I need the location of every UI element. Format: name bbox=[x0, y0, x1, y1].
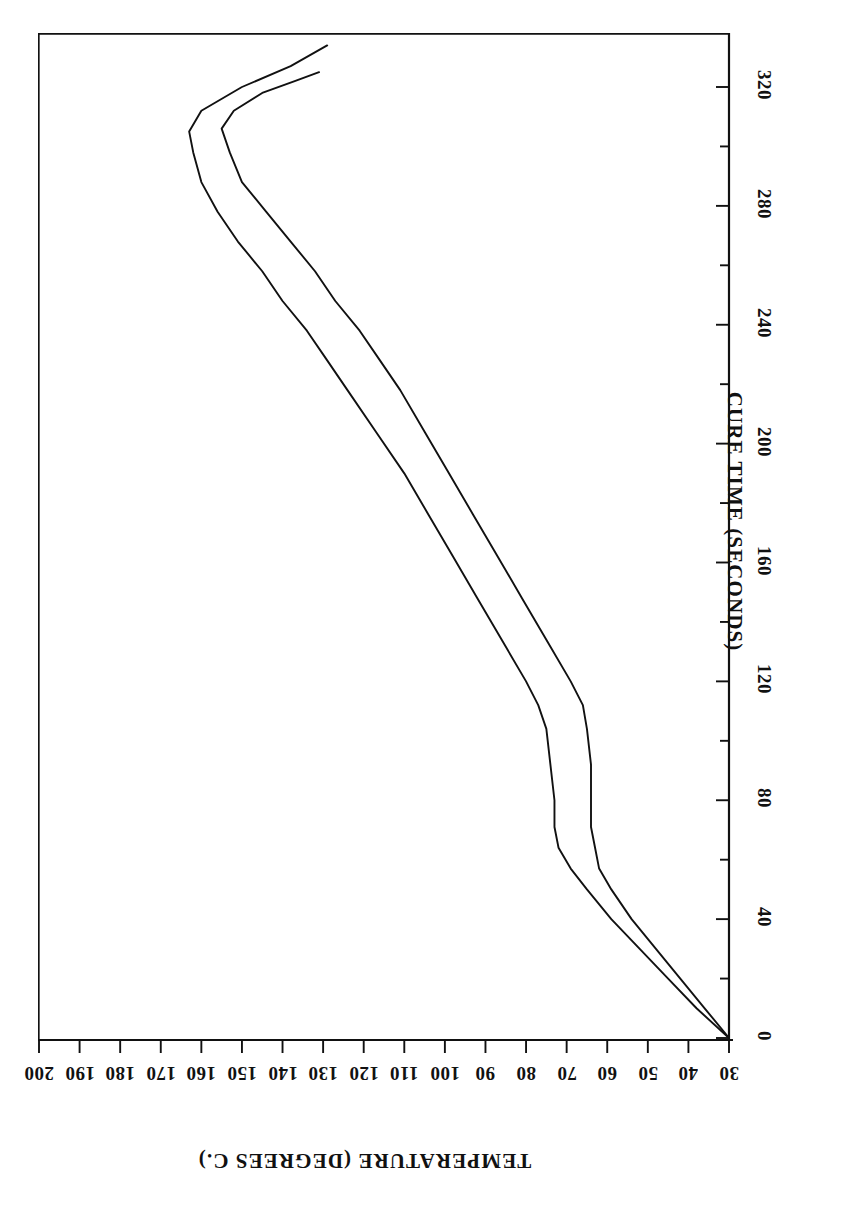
time-tick-label-320: 320 bbox=[753, 58, 775, 112]
cure-time-axis-title: CURE TIME (SECONDS) bbox=[722, 312, 747, 732]
time-tick-label-280: 280 bbox=[753, 177, 775, 231]
time-tick-label-0: 0 bbox=[753, 1009, 775, 1063]
time-tick-label-80: 80 bbox=[753, 771, 775, 825]
time-tick-label-40: 40 bbox=[753, 890, 775, 944]
chart-figure: 04080120160200240280320 3040506070809010… bbox=[0, 0, 841, 1210]
temperature-axis-ticks bbox=[39, 1040, 729, 1053]
time-tick-label-120: 120 bbox=[753, 652, 775, 706]
temperature-tick-label-200: 200 bbox=[12, 1062, 66, 1084]
time-tick-label-200: 200 bbox=[753, 415, 775, 469]
temperature-axis-title: TEMPERATURE (DEGREES C.) bbox=[0, 1148, 729, 1173]
axes-layer bbox=[0, 0, 841, 1210]
time-tick-label-160: 160 bbox=[753, 534, 775, 588]
time-tick-label-240: 240 bbox=[753, 296, 775, 350]
